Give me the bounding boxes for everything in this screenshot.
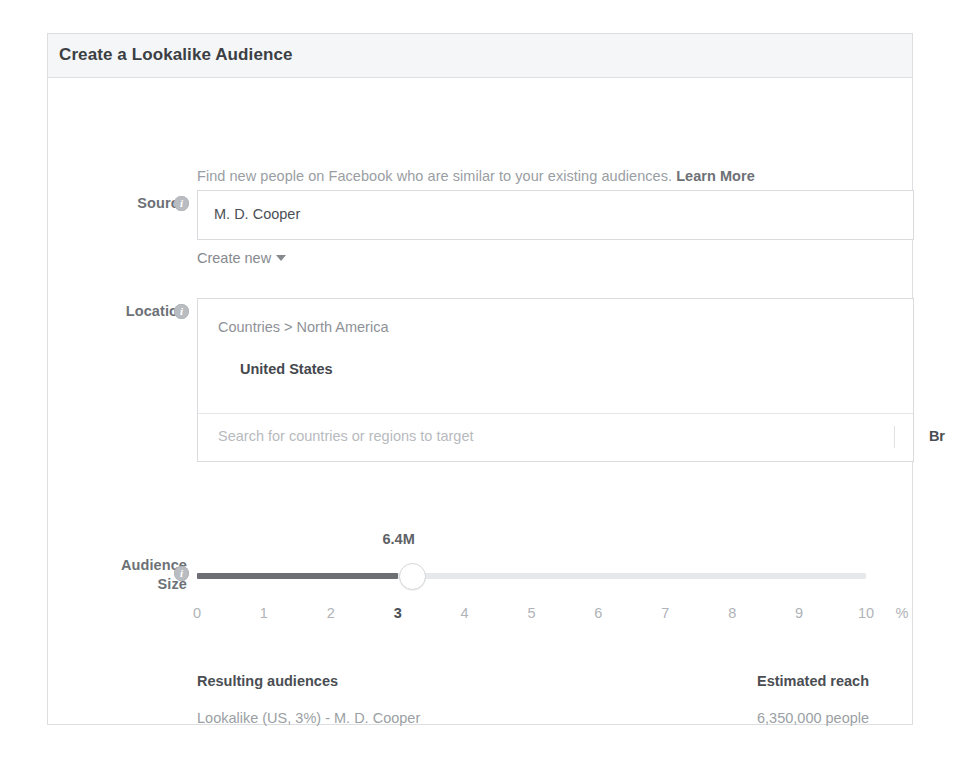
slider-tick-0[interactable]: 0 [193, 605, 201, 621]
audience-size-slider[interactable]: 6.4M [197, 563, 914, 589]
slider-ticks: 012345678910% [197, 605, 914, 625]
resulting-audiences-value: Lookalike (US, 3%) - M. D. Cooper [197, 710, 697, 726]
slider-track[interactable] [197, 573, 866, 579]
slider-tick-2[interactable]: 2 [327, 605, 335, 621]
location-selected-country[interactable]: United States [240, 361, 333, 377]
audience-size-value-label: 6.4M [382, 531, 414, 547]
location-search-input[interactable]: Search for countries or regions to targe… [218, 428, 474, 444]
dialog-title: Create a Lookalike Audience [59, 45, 293, 65]
estimated-reach-column: Estimated reach 6,350,000 people [757, 673, 963, 726]
audience-size-label: Audience Size [77, 556, 187, 594]
source-info-icon[interactable]: i [174, 196, 189, 211]
create-new-label: Create new [197, 250, 271, 266]
create-lookalike-audience-dialog: Create a Lookalike Audience Find new peo… [47, 33, 913, 725]
audience-size-label-line2: Size [77, 575, 187, 594]
slider-unit-label: % [896, 605, 909, 621]
source-input-value: M. D. Cooper [214, 206, 300, 222]
slider-tick-8[interactable]: 8 [728, 605, 736, 621]
resulting-audiences-header: Resulting audiences [197, 673, 697, 689]
browse-divider [894, 426, 895, 448]
estimated-reach-value: 6,350,000 people [757, 710, 963, 726]
source-input[interactable]: M. D. Cooper [197, 190, 914, 240]
slider-tick-4[interactable]: 4 [461, 605, 469, 621]
audience-size-label-line1: Audience [77, 556, 187, 575]
source-label: Source [87, 194, 187, 213]
slider-tick-9[interactable]: 9 [795, 605, 803, 621]
intro-text: Find new people on Facebook who are simi… [197, 168, 755, 184]
intro-description: Find new people on Facebook who are simi… [197, 168, 672, 184]
slider-tick-1[interactable]: 1 [260, 605, 268, 621]
browse-button[interactable]: Br [929, 428, 945, 444]
slider-fill [197, 573, 398, 579]
dialog-body: Find new people on Facebook who are simi… [48, 78, 912, 725]
slider-tick-3[interactable]: 3 [394, 605, 402, 621]
audience-size-info-icon[interactable]: i [174, 566, 189, 581]
location-info-icon[interactable]: i [174, 304, 189, 319]
dialog-header: Create a Lookalike Audience [48, 34, 912, 78]
estimated-reach-header: Estimated reach [757, 673, 963, 689]
learn-more-link[interactable]: Learn More [676, 168, 755, 184]
chevron-down-icon [276, 255, 286, 261]
create-new-dropdown[interactable]: Create new [197, 250, 286, 266]
slider-tick-10[interactable]: 10 [858, 605, 874, 621]
slider-tick-7[interactable]: 7 [661, 605, 669, 621]
location-breadcrumb: Countries > North America [218, 319, 388, 335]
slider-tick-6[interactable]: 6 [594, 605, 602, 621]
location-label: Location [87, 302, 187, 321]
resulting-audiences-column: Resulting audiences Lookalike (US, 3%) -… [197, 673, 697, 726]
location-box: Countries > North America United States … [197, 298, 914, 462]
slider-tick-5[interactable]: 5 [527, 605, 535, 621]
location-search-row[interactable]: Search for countries or regions to targe… [198, 413, 913, 461]
slider-thumb[interactable] [399, 563, 426, 590]
